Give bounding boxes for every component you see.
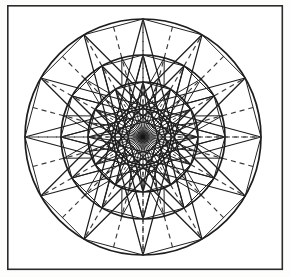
figure-page [0,0,290,277]
center-hub [141,135,145,139]
geometric-diagram [0,0,290,277]
